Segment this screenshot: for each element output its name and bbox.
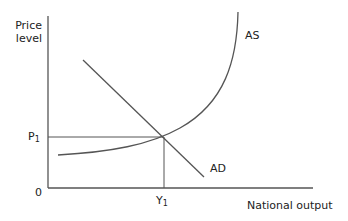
y-axis-label-line2: level <box>14 32 42 45</box>
ad-curve <box>83 60 204 177</box>
as-label: AS <box>245 29 260 42</box>
p1-label: P1 <box>28 130 40 144</box>
x-axis-label: National output <box>247 199 333 212</box>
origin-label: 0 <box>35 186 42 199</box>
y-axis-label-line1: Price <box>14 19 42 32</box>
as-curve <box>58 12 238 155</box>
y-axis-label: Price level <box>14 19 42 45</box>
ad-label: AD <box>210 162 226 175</box>
ad-as-diagram <box>0 0 348 221</box>
y1-label: Y1 <box>156 194 168 208</box>
